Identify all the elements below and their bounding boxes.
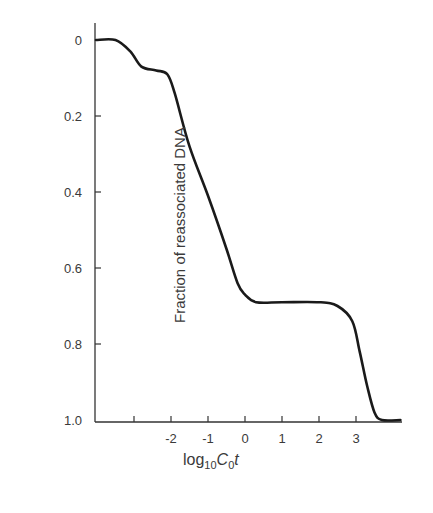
x-tick-label: 0 xyxy=(241,431,248,446)
y-tick-label: 1.0 xyxy=(64,413,82,428)
x-axis-title-base: 10 xyxy=(204,459,216,471)
x-axis-title-c: C xyxy=(217,451,229,468)
y-tick-label: 0.8 xyxy=(64,337,82,352)
x-axis-title-log: log xyxy=(183,451,204,468)
axes xyxy=(95,23,402,422)
y-tick-label: 0.4 xyxy=(64,185,82,200)
y-axis-title: Fraction of reassociated DNA xyxy=(171,75,191,375)
x-tick-label: -2 xyxy=(165,431,177,446)
data-curve xyxy=(96,39,400,420)
x-axis-title-t: t xyxy=(234,451,238,468)
x-tick-label: 2 xyxy=(315,431,322,446)
x-axis-title: log10C0t xyxy=(183,451,239,471)
x-tick-label: 1 xyxy=(278,431,285,446)
y-tick-label: 0.2 xyxy=(64,109,82,124)
x-tick-label: -1 xyxy=(202,431,214,446)
x-tick-label: 3 xyxy=(352,431,359,446)
x-ticks: -2-10123 xyxy=(134,416,360,446)
y-tick-label: 0 xyxy=(75,33,82,48)
y-tick-label: 0.6 xyxy=(64,261,82,276)
reassociation-chart: 00.20.40.60.81.0 -2-10123 xyxy=(0,0,433,513)
